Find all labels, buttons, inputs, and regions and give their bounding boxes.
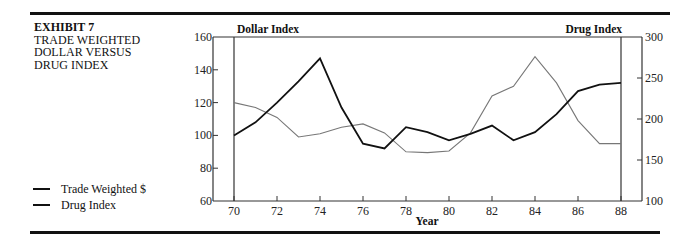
x-tick-label: 74 bbox=[314, 204, 326, 218]
x-tick-label: 70 bbox=[228, 204, 240, 218]
left-tick-label: 160 bbox=[194, 30, 212, 44]
right-tick-label: 150 bbox=[645, 153, 663, 167]
chart-lines bbox=[234, 57, 621, 153]
axis-ticks: 6080100120140160100150200250300707274767… bbox=[194, 30, 663, 218]
left-tick-label: 120 bbox=[194, 96, 212, 110]
x-tick-label: 86 bbox=[572, 204, 584, 218]
x-tick-label: 80 bbox=[443, 204, 455, 218]
left-tick-label: 100 bbox=[194, 128, 212, 142]
x-tick-label: 88 bbox=[615, 204, 627, 218]
trade-weighted-dollar-line bbox=[234, 58, 621, 148]
right-tick-label: 300 bbox=[645, 30, 663, 44]
drug-index-line bbox=[234, 57, 621, 153]
x-tick-label: 78 bbox=[400, 204, 412, 218]
x-tick-label: 82 bbox=[486, 204, 498, 218]
x-tick-label: 72 bbox=[271, 204, 283, 218]
right-tick-label: 200 bbox=[645, 112, 663, 126]
left-tick-label: 140 bbox=[194, 63, 212, 77]
x-tick-label: 84 bbox=[529, 204, 541, 218]
line-chart: 6080100120140160100150200250300707274767… bbox=[0, 0, 689, 236]
right-tick-label: 250 bbox=[645, 71, 663, 85]
x-axis-title: Year bbox=[416, 215, 439, 227]
left-tick-label: 80 bbox=[200, 161, 212, 175]
x-tick-label: 76 bbox=[357, 204, 369, 218]
right-tick-label: 100 bbox=[645, 194, 663, 208]
left-tick-label: 60 bbox=[200, 194, 212, 208]
right-axis-title: Drug Index bbox=[565, 23, 622, 36]
left-axis-title: Dollar Index bbox=[237, 23, 299, 35]
